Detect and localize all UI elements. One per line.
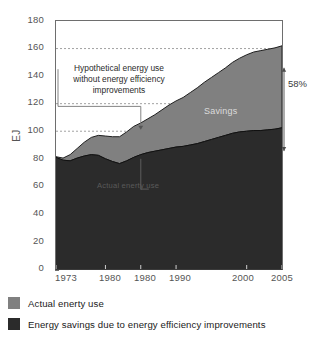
- legend-swatch-savings: [8, 318, 20, 330]
- actual-use-label: Actual enerty use: [97, 181, 159, 190]
- x-tick-1985: 1980: [134, 272, 156, 283]
- savings-label: Savings: [204, 106, 237, 116]
- y-tick-120: 120: [28, 97, 44, 107]
- y-tick-60: 60: [33, 180, 44, 190]
- y-tick-20: 20: [33, 236, 44, 246]
- y-tick-140: 140: [28, 70, 44, 80]
- y-tick-160: 160: [28, 42, 44, 52]
- y-tick-180: 180: [28, 15, 44, 25]
- legend-item-actual: Actual enerty use: [8, 296, 308, 310]
- plot-area: [55, 20, 283, 270]
- x-tick-2000: 2000: [232, 272, 254, 283]
- y-tick-40: 40: [33, 208, 44, 218]
- legend-label-actual: Actual enerty use: [28, 298, 104, 309]
- savings-bracket: [278, 40, 298, 160]
- y-axis-title: EJ: [11, 116, 22, 156]
- stacked-area-plot: [56, 21, 282, 269]
- x-tick-1980: 1980: [99, 272, 121, 283]
- y-axis-labels: 180 160 140 120 100 80 60 40 20 0: [0, 0, 52, 290]
- x-tick-1990: 1990: [169, 272, 191, 283]
- hypothetical-line-1: Hypothetical energy use: [58, 63, 180, 74]
- savings-percent-label: 58%: [288, 78, 307, 89]
- chart-legend: Actual enerty use Energy savings due to …: [8, 296, 308, 337]
- hypothetical-line-3: improvements: [58, 85, 180, 96]
- legend-item-savings: Energy savings due to energy efficiency …: [8, 317, 308, 331]
- legend-label-savings: Energy savings due to energy efficiency …: [28, 319, 266, 330]
- y-tick-80: 80: [33, 153, 44, 163]
- y-tickmark-0: [55, 270, 59, 271]
- hypothetical-line-2: without energy efficiency: [58, 74, 180, 85]
- x-axis-labels: 1973 1980 1980 1990 2000 2005: [0, 272, 312, 288]
- legend-swatch-actual: [8, 297, 20, 309]
- hypothetical-annotation: Hypothetical energy use without energy e…: [58, 63, 180, 97]
- chart-container: 180 160 140 120 100 80 60 40 20 0 EJ Hyp…: [0, 0, 312, 337]
- y-tick-100: 100: [28, 125, 44, 135]
- x-tick-1973: 1973: [55, 272, 77, 283]
- x-tick-2005: 2005: [271, 272, 293, 283]
